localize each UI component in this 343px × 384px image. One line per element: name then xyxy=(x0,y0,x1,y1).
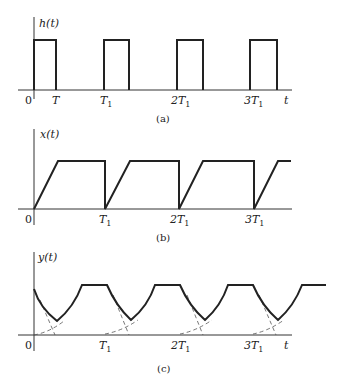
waveform-y xyxy=(34,285,326,321)
pulse-train-h xyxy=(34,40,277,90)
waveform-x xyxy=(34,161,291,209)
figure-canvas: h(t) 0 T T1 2T1 3T1 t (a) x(t) 0 T1 2T1 … xyxy=(0,0,343,384)
tick-c-T1: T1 xyxy=(99,339,111,354)
ylabel-c: y(t) xyxy=(37,251,57,264)
panel-c: y(t) 0 T1 2T1 3T1 t (c) xyxy=(18,251,326,374)
xlabel-a: t xyxy=(284,94,289,107)
caption-c: (c) xyxy=(157,363,171,374)
construction-dashes xyxy=(34,295,284,335)
tick-a-3T1: 3T1 xyxy=(244,94,263,109)
tick-a-T: T xyxy=(52,94,61,107)
ylabel-a: h(t) xyxy=(39,17,59,30)
xlabel-c: t xyxy=(284,339,289,352)
panel-a: h(t) 0 T T1 2T1 3T1 t (a) xyxy=(18,17,292,124)
ylabel-b: x(t) xyxy=(40,128,59,141)
tick-b-T1: T1 xyxy=(99,213,111,228)
origin-b: 0 xyxy=(25,213,32,226)
panel-b: x(t) 0 T1 2T1 3T1 (b) xyxy=(18,128,292,243)
origin-a: 0 xyxy=(25,94,32,107)
tick-b-2T1: 2T1 xyxy=(169,213,189,228)
caption-a: (a) xyxy=(156,113,170,124)
tick-a-2T1: 2T1 xyxy=(170,94,190,109)
caption-b: (b) xyxy=(156,232,170,243)
tick-c-2T1: 2T1 xyxy=(170,339,190,354)
tick-a-T1: T1 xyxy=(100,94,112,109)
origin-c: 0 xyxy=(25,339,32,352)
tick-c-3T1: 3T1 xyxy=(244,339,263,354)
tick-b-3T1: 3T1 xyxy=(245,213,264,228)
